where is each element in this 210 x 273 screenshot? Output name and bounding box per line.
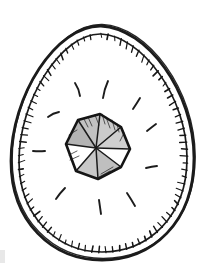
stitch-tick — [34, 211, 40, 216]
stitch-tick — [43, 76, 48, 81]
stitch-tick — [48, 227, 52, 232]
stitch-tick — [27, 199, 32, 204]
sparkle-ray — [127, 193, 135, 206]
egg-gem-illustration — [0, 0, 210, 273]
gem — [66, 114, 130, 179]
stitch-tick — [165, 89, 170, 92]
sparkle-ray — [56, 188, 65, 199]
stitch-tick — [169, 101, 175, 105]
sparkle-ray — [146, 166, 157, 168]
stitch-tick — [90, 35, 91, 40]
stitch-tick — [38, 217, 42, 222]
stitch-tick — [43, 222, 47, 227]
sparkle-ray — [147, 124, 156, 131]
stitch-tick — [154, 226, 158, 232]
stitch-tick — [99, 246, 100, 253]
stitch-tick — [142, 55, 144, 62]
paper-smudge — [0, 250, 5, 263]
stitch-tick — [112, 247, 113, 253]
stitch-tick — [167, 213, 172, 217]
sparkle-ray — [75, 83, 80, 96]
stitch-tick — [61, 53, 63, 60]
stitch-tick — [180, 156, 188, 157]
sparkle-ray — [48, 112, 59, 117]
stitch-tick — [20, 141, 27, 142]
stitch-tick — [150, 231, 152, 237]
stitch-tick — [19, 169, 24, 170]
illustration-canvas — [0, 0, 210, 273]
stitch-tick — [132, 46, 134, 52]
stitch-tick — [56, 59, 60, 64]
sparkle-ray — [103, 81, 108, 98]
stitch-tick — [162, 217, 167, 223]
gem-ridge — [96, 148, 130, 149]
stitch-tick — [132, 242, 133, 247]
stitch-tick — [153, 71, 158, 76]
stitch-tick — [158, 223, 163, 228]
stitch-tick — [47, 70, 50, 76]
stitch-tick — [151, 65, 154, 70]
stitch-tick — [107, 34, 108, 39]
stitch-tick — [51, 64, 55, 69]
sparkle-ray — [133, 98, 140, 109]
sparkle-ray — [99, 200, 101, 214]
